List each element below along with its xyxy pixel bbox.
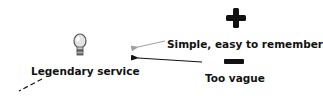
con-label[interactable]: Too vague (205, 72, 265, 84)
central-node-label[interactable]: Legendary service (31, 65, 140, 77)
dashed-connector (19, 79, 42, 91)
plus-icon (226, 8, 246, 28)
minus-icon (224, 59, 244, 64)
pro-label[interactable]: Simple, easy to remember (167, 38, 323, 50)
connector-plus (138, 41, 165, 47)
lightbulb-icon (74, 34, 86, 55)
connector-minus (138, 58, 202, 62)
